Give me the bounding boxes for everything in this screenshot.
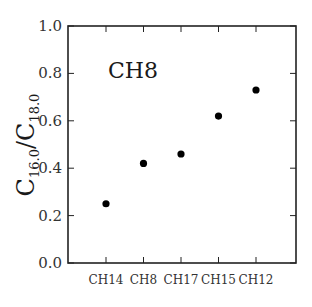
data-point	[177, 150, 184, 157]
chart-annotation: CH8	[108, 58, 158, 83]
data-point	[215, 112, 222, 119]
svg-text:C16.0/C18.0: C16.0/C18.0	[12, 94, 42, 197]
y-axis-label: C16.0/C18.0	[12, 94, 42, 197]
data-point	[252, 86, 259, 93]
data-point	[102, 200, 109, 207]
y-tick-label: 1.0	[38, 17, 62, 35]
x-tick-label: CH12	[239, 273, 274, 287]
x-tick-label: CH8	[130, 273, 157, 287]
y-tick-label: 0.0	[38, 254, 62, 272]
data-point	[140, 160, 147, 167]
y-axis-ticks: 0.00.20.40.60.81.0	[38, 17, 296, 272]
y-tick-label: 0.8	[38, 64, 62, 82]
y-tick-label: 0.2	[38, 207, 62, 225]
x-tick-label: CH14	[89, 273, 124, 287]
x-tick-label: CH17	[164, 273, 199, 287]
data-points	[102, 86, 259, 207]
x-tick-label: CH15	[201, 273, 236, 287]
scatter-chart: 0.00.20.40.60.81.0 CH14CH8CH17CH15CH12 C…	[0, 0, 312, 307]
plot-frame	[68, 26, 296, 263]
